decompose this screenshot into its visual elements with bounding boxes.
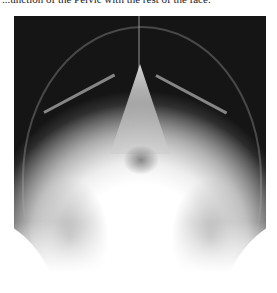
xray-skull-outline (22, 26, 262, 282)
xray-right-cheek (166, 136, 266, 282)
caption-text: ...unction of the Pelvic with the rest o… (0, 0, 277, 6)
xray-left-arch (43, 74, 115, 114)
xray-bottom-right-mask (216, 216, 266, 282)
xray-bottom-fade (14, 222, 266, 282)
xray-bright-region (14, 16, 266, 282)
xray-nasal-peak (110, 64, 170, 154)
xray-left-cheek (14, 136, 114, 282)
xray-right-arch (155, 74, 227, 114)
xray-septum-line (138, 16, 140, 71)
xray-bottom-left-mask (14, 216, 64, 282)
xray-image (14, 16, 266, 282)
xray-central-dark-spot (124, 146, 158, 174)
